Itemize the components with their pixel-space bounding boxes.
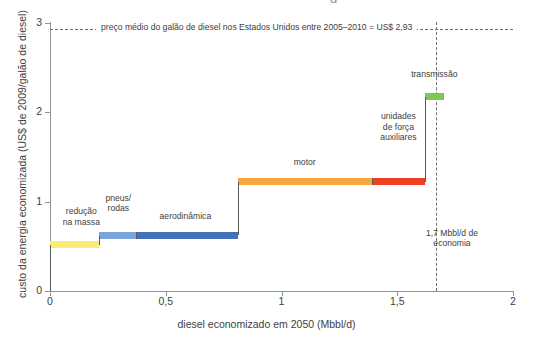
bar-pneus-rodas[interactable] (99, 232, 136, 239)
bar-label-motor: motor (260, 157, 350, 167)
bar-label-unidades-de-forca-auxiliares: unidades de força auxiliares (353, 111, 443, 142)
x-tick-label-0,5: 0,5 (136, 295, 196, 307)
bar-unidades-de-forca-auxiliares[interactable] (372, 178, 425, 185)
riser-transmissao-base (425, 97, 426, 182)
bar-label-aerodinamica: aerodinâmica (140, 211, 230, 221)
riser-pneus-rodas (99, 236, 100, 245)
x-axis-label: diesel economizado em 2050 (Mbbl/d) (0, 318, 533, 330)
chart-figure: g custo da energia economizada (US$ de 2… (0, 0, 533, 341)
y-tick-2 (45, 112, 50, 113)
x-tick-label-0: 0 (20, 295, 80, 307)
total-savings-reference-label: 1,7 Mbbl/d de economia (408, 228, 496, 249)
bar-aerodinamica[interactable] (136, 232, 238, 239)
bar-motor[interactable] (238, 178, 372, 185)
bar-transmissao[interactable] (425, 93, 444, 100)
bar-reducao-na-massa[interactable] (50, 241, 99, 248)
bar-label-transmissao: transmissão (389, 69, 479, 79)
total-savings-reference-line (436, 22, 437, 291)
x-tick-label-1: 1 (252, 295, 312, 307)
y-tick-1 (45, 202, 50, 203)
x-tick-label-1,5: 1,5 (367, 295, 427, 307)
riser-reducao-na-massa (50, 245, 51, 292)
x-tick-label-2: 2 (483, 295, 533, 307)
separator-unidades-de-forca-auxiliares (372, 178, 373, 185)
y-tick-label-1: 1 (0, 196, 42, 207)
separator-aerodinamica (136, 232, 137, 239)
y-tick-label-2: 2 (0, 106, 42, 117)
y-tick-label-0: 0 (0, 285, 42, 296)
y-tick-label-3: 3 (0, 17, 42, 28)
y-axis-label: custo da energia economizada (US$ de 200… (16, 4, 28, 304)
diesel-price-reference-label: preço médio do galão de diesel nos Estad… (96, 22, 417, 32)
y-tick-3 (45, 23, 50, 24)
riser-motor (238, 182, 239, 236)
clipped-title-remnant: g (330, 0, 338, 3)
